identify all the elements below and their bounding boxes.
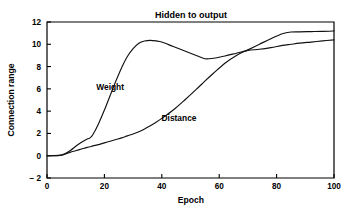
y-tick-label: 12: [32, 18, 42, 27]
y-axis-title: Connection range: [6, 63, 16, 136]
y-tick-label: 4: [36, 107, 41, 116]
series-label-weight: Weight: [96, 82, 124, 92]
series-label-distance: Distance: [162, 113, 197, 123]
x-tick-label: 80: [272, 182, 282, 191]
x-tick-labels: 020406080100: [45, 182, 342, 191]
chart-figure: Hidden to output 121086420− 2 0204060801…: [0, 0, 358, 215]
series-line-weight: [47, 40, 334, 156]
y-tick-label: 6: [36, 85, 41, 94]
y-tick-label: − 2: [29, 174, 41, 183]
line-chart: Hidden to output 121086420− 2 0204060801…: [0, 0, 358, 215]
x-tick-label: 0: [45, 182, 50, 191]
series-line-distance: [47, 31, 334, 156]
y-tick-label: 2: [36, 129, 41, 138]
x-axis-title: Epoch: [178, 195, 204, 205]
x-tick-label: 100: [327, 182, 341, 191]
x-tick-label: 60: [215, 182, 225, 191]
y-tick-label: 10: [32, 40, 42, 49]
x-tick-label: 40: [157, 182, 167, 191]
data-series-group: [47, 31, 334, 156]
plot-frame: [47, 22, 334, 178]
y-tick-labels: 121086420− 2: [29, 18, 41, 183]
y-tick-label: 8: [36, 63, 41, 72]
y-tick-label: 0: [36, 152, 41, 161]
chart-title: Hidden to output: [155, 10, 227, 20]
x-tick-label: 20: [100, 182, 110, 191]
chart-axes: [47, 22, 334, 178]
